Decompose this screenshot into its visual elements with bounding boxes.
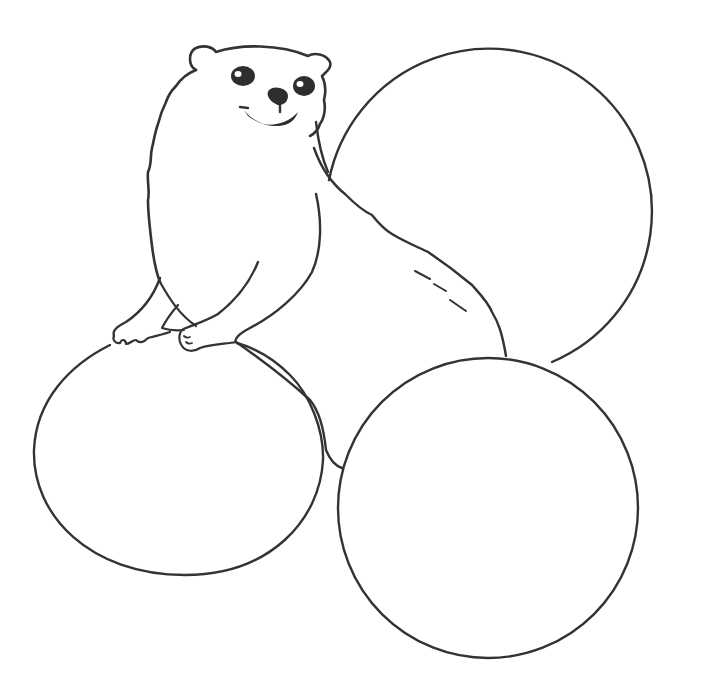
coloring-page-canvas <box>0 0 710 697</box>
otter-mouth-corner <box>240 107 248 108</box>
otter-left-eye <box>231 66 255 86</box>
background <box>0 0 710 697</box>
otter-right-eye <box>293 76 315 96</box>
